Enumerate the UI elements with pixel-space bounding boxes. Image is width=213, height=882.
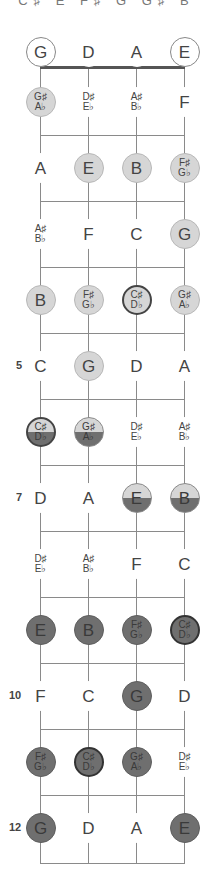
note-fret11-string-e: D♯E♭ (170, 747, 200, 777)
note-flat-label: D♭ (130, 300, 142, 310)
note-flat-label: E♭ (35, 564, 47, 574)
note-flat-label: G♭ (178, 168, 191, 178)
note-label: A (131, 820, 142, 837)
note-fret9-string-d: B (74, 615, 104, 645)
note-fret3-string-d: F (74, 219, 104, 249)
note-fret12-string-a: A (122, 813, 152, 843)
note-fret0-string-d: D (74, 37, 104, 67)
note-label: F (131, 556, 141, 573)
note-label: F (179, 94, 189, 111)
note-label: A (179, 358, 190, 375)
note-fret7-string-g: D (26, 483, 56, 513)
note-fret3-string-g: A♯B♭ (26, 219, 56, 249)
note-fret7-string-a: E (122, 483, 152, 513)
note-fret2-string-d: E (74, 153, 104, 183)
fret-line (40, 201, 185, 202)
note-flat-label: G♭ (130, 630, 143, 640)
note-fret12-string-d: D (74, 813, 104, 843)
note-fret4-string-d: F♯G♭ (74, 285, 104, 315)
note-fret10-string-e: D (170, 681, 200, 711)
note-label: G (34, 44, 47, 61)
note-flat-label: D♭ (178, 630, 190, 640)
fret-number-10: 10 (9, 689, 25, 701)
note-label: D (82, 820, 94, 837)
note-label: E (131, 490, 142, 507)
fret-line (40, 531, 185, 532)
note-fret1-string-a: A♯B♭ (122, 87, 152, 117)
note-fret8-string-d: A♯B♭ (74, 549, 104, 579)
note-label: G (34, 820, 47, 837)
note-label: A (131, 44, 142, 61)
note-flat-label: E♭ (131, 432, 143, 442)
note-label: D (34, 490, 46, 507)
note-flat-label: D♭ (34, 432, 46, 442)
note-flat-label: B♭ (131, 102, 143, 112)
fret-line (40, 863, 185, 864)
note-flat-label: E♭ (83, 102, 95, 112)
note-fret6-string-a: D♯E♭ (122, 417, 152, 447)
note-label: C (82, 688, 94, 705)
note-label: G (130, 688, 143, 705)
note-fret6-string-g: C♯D♭ (26, 417, 56, 447)
fret-line (40, 597, 185, 598)
note-fret10-string-a: G (122, 681, 152, 711)
note-fret11-string-a: G♯A♭ (122, 747, 152, 777)
note-fret7-string-e: B (170, 483, 200, 513)
note-flat-label: B♭ (83, 564, 95, 574)
note-flat-label: E♭ (179, 762, 191, 772)
fret-line (40, 135, 185, 136)
note-label: A (83, 490, 94, 507)
note-fret9-string-a: F♯G♭ (122, 615, 152, 645)
note-fret4-string-a: C♯D♭ (122, 285, 152, 315)
note-fret5-string-g: C (26, 351, 56, 381)
note-fret0-string-e: E (170, 37, 200, 67)
note-fret10-string-g: F (26, 681, 56, 711)
fretboard-diagram: 571012GDAEG♯A♭D♯E♭A♯B♭FAEBF♯G♭A♯B♭FCGBF♯… (0, 0, 213, 882)
note-label: A (35, 160, 46, 177)
note-fret6-string-d: G♯A♭ (74, 417, 104, 447)
fret-line (40, 729, 185, 730)
note-fret8-string-g: D♯E♭ (26, 549, 56, 579)
note-flat-label: A♭ (179, 300, 191, 310)
note-label: B (131, 160, 142, 177)
note-fret2-string-g: A (26, 153, 56, 183)
fret-line (40, 267, 185, 268)
note-fret5-string-d: G (74, 351, 104, 381)
note-label: E (35, 622, 46, 639)
note-label: F (83, 226, 93, 243)
fret-line (40, 465, 185, 466)
note-flat-label: B♭ (35, 234, 47, 244)
note-label: E (179, 44, 190, 61)
note-label: D (178, 688, 190, 705)
note-fret9-string-g: E (26, 615, 56, 645)
note-label: B (179, 490, 190, 507)
note-fret11-string-d: C♯D♭ (74, 747, 104, 777)
note-fret5-string-a: D (122, 351, 152, 381)
note-fret1-string-d: D♯E♭ (74, 87, 104, 117)
fret-line (40, 795, 185, 796)
note-label: E (83, 160, 94, 177)
fret-number-12: 12 (9, 821, 25, 833)
note-fret11-string-g: F♯G♭ (26, 747, 56, 777)
note-label: D (82, 44, 94, 61)
note-flat-label: D♭ (82, 762, 94, 772)
note-fret4-string-e: G♯A♭ (170, 285, 200, 315)
note-flat-label: G♭ (82, 300, 95, 310)
nut (40, 66, 185, 69)
note-flat-label: A♭ (83, 432, 95, 442)
note-label: G (82, 358, 95, 375)
note-fret2-string-a: B (122, 153, 152, 183)
note-fret3-string-e: G (170, 219, 200, 249)
note-fret8-string-e: C (170, 549, 200, 579)
note-fret10-string-d: C (74, 681, 104, 711)
note-flat-label: A♭ (35, 102, 47, 112)
note-label: C (34, 358, 46, 375)
note-flat-label: A♭ (131, 762, 143, 772)
note-fret12-string-g: G (26, 813, 56, 843)
note-label: C (178, 556, 190, 573)
note-fret9-string-e: C♯D♭ (170, 615, 200, 645)
note-fret8-string-a: F (122, 549, 152, 579)
note-flat-label: B♭ (179, 432, 191, 442)
note-fret3-string-a: C (122, 219, 152, 249)
note-label: C (130, 226, 142, 243)
